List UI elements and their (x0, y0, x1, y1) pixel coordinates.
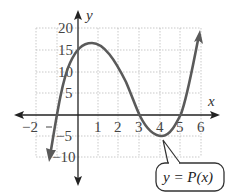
callout-label: y = P(x) (161, 169, 213, 186)
function-callout: y = P(x) (156, 140, 224, 191)
x-axis-label: x (207, 93, 215, 109)
y-axis-label: y (84, 7, 93, 23)
y-tick: −10 (52, 149, 75, 165)
x-tick: 4 (156, 119, 164, 135)
x-tick: 2 (114, 119, 122, 135)
y-tick: 20 (58, 20, 73, 36)
x-tick: 6 (197, 119, 205, 135)
polynomial-graph: y x −2 1 2 3 4 5 6 20 15 10 5 −5 −10 y =… (0, 0, 228, 196)
y-tick: 15 (58, 42, 73, 58)
x-tick: 1 (94, 119, 102, 135)
x-tick: −2 (22, 119, 38, 135)
x-tick: 3 (135, 119, 143, 135)
y-tick: 5 (65, 85, 73, 101)
x-axis (14, 111, 220, 119)
y-tick: −5 (56, 128, 72, 144)
